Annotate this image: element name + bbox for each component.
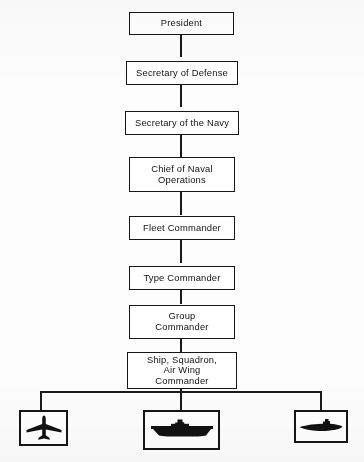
node-secretary-of-the-navy: Secretary of the Navy <box>125 111 239 135</box>
node-unit-commander: Ship, Squadron, Air Wing Commander <box>127 352 237 389</box>
connector-secnav-cno <box>180 134 182 157</box>
branch-drop-submarine <box>320 391 322 410</box>
ship-icon <box>149 419 215 441</box>
connector-type-group <box>180 290 182 304</box>
connector-president-secdef <box>180 34 182 57</box>
connector-fleet-type <box>180 240 182 263</box>
connector-group-unit <box>180 338 182 352</box>
node-president: President <box>129 12 234 35</box>
node-type-commander: Type Commander <box>129 266 235 290</box>
unit-box-ship <box>143 410 220 450</box>
node-chief-of-naval-operations: Chief of Naval Operations <box>129 157 235 192</box>
node-group-commander: Group Commander <box>129 305 235 339</box>
connector-cno-fleet <box>180 191 182 215</box>
org-chart-figure: President Secretary of Defense Secretary… <box>0 0 364 462</box>
aircraft-icon <box>24 415 64 442</box>
node-fleet-commander: Fleet Commander <box>129 216 235 240</box>
unit-box-aircraft <box>19 410 68 446</box>
connector-secdef-secnav <box>180 84 182 107</box>
branch-drop-aircraft <box>40 391 42 410</box>
node-secretary-of-defense: Secretary of Defense <box>126 61 238 85</box>
unit-box-submarine <box>294 410 348 443</box>
branch-drop-ship <box>180 391 182 410</box>
submarine-icon <box>298 418 344 436</box>
